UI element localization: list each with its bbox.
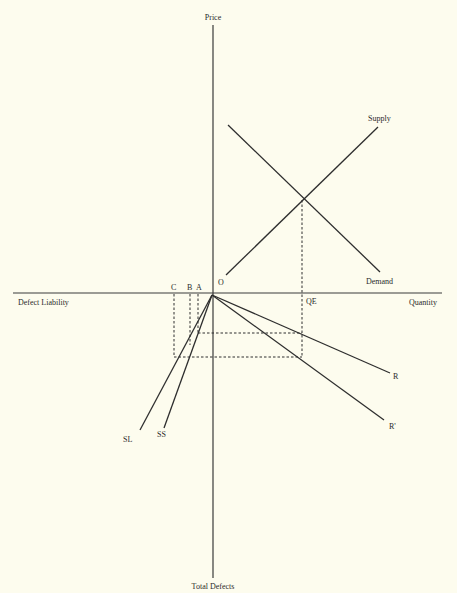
supply-label: Supply bbox=[368, 114, 391, 123]
ss-label: SS bbox=[157, 430, 166, 439]
r-curve bbox=[212, 295, 390, 373]
r-label: R bbox=[393, 372, 399, 381]
total-defects-axis-label: Total Defects bbox=[192, 582, 235, 591]
quantity-axis-label: Quantity bbox=[409, 298, 437, 307]
demand-label: Demand bbox=[366, 277, 393, 286]
defect-liability-axis-label: Defect Liability bbox=[18, 298, 69, 307]
point-a-label: A bbox=[196, 283, 202, 292]
sl-label: SL bbox=[123, 435, 132, 444]
ss-curve bbox=[164, 295, 212, 428]
sl-curve bbox=[140, 295, 212, 430]
point-c-label: C bbox=[171, 283, 176, 292]
origin-label: O bbox=[218, 278, 224, 287]
price-axis-label: Price bbox=[205, 13, 222, 22]
r-prime-label: R' bbox=[389, 422, 396, 431]
qe-label: QE bbox=[306, 297, 317, 306]
point-b-label: B bbox=[187, 283, 192, 292]
economics-diagram: Price Total Defects Defect Liability Qua… bbox=[0, 0, 457, 593]
